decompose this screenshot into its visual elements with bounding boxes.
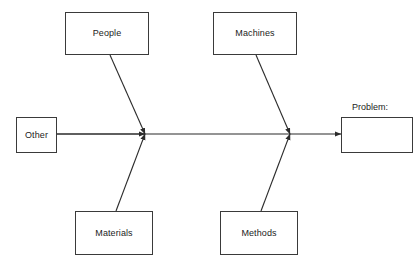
bone-arrow-methods — [261, 134, 290, 211]
category-box-methods[interactable]: Methods — [220, 211, 298, 255]
category-box-other[interactable]: Other — [16, 117, 57, 153]
category-box-materials[interactable]: Materials — [75, 211, 153, 255]
category-label-people: People — [93, 29, 122, 38]
bone-arrow-people — [110, 55, 145, 134]
category-label-machines: Machines — [235, 29, 274, 38]
category-label-methods: Methods — [241, 229, 276, 238]
problem-caption-label: Problem: — [352, 103, 388, 112]
bone-arrow-machines — [256, 55, 290, 134]
fishbone-diagram-canvas: People Machines Other Materials Methods … — [0, 0, 418, 266]
category-box-people[interactable]: People — [65, 12, 149, 55]
category-label-materials: Materials — [95, 229, 132, 238]
category-label-other: Other — [25, 131, 48, 140]
problem-statement-box[interactable] — [341, 117, 413, 153]
bone-arrow-materials — [116, 134, 145, 211]
category-box-machines[interactable]: Machines — [213, 12, 297, 55]
